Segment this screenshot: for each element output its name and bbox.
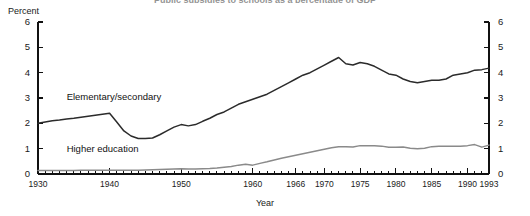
y-tick-label-left: 3 bbox=[14, 93, 30, 102]
x-tick-label: 1950 bbox=[161, 180, 201, 189]
y-tick-label-left: 2 bbox=[14, 118, 30, 127]
x-tick-label: 1980 bbox=[376, 180, 416, 189]
x-tick-label: 1930 bbox=[18, 180, 58, 189]
y-tick-label-right: 0 bbox=[498, 169, 514, 178]
x-tick-label: 1985 bbox=[412, 180, 452, 189]
x-tick-label: 1975 bbox=[340, 180, 380, 189]
y-tick-label-left: 6 bbox=[14, 17, 30, 26]
x-tick-label: 1970 bbox=[304, 180, 344, 189]
series-label: Elementary/secondary bbox=[67, 91, 162, 102]
x-tick-label: 1993 bbox=[469, 180, 509, 189]
x-axis-title: Year bbox=[0, 198, 530, 208]
y-tick-label-right: 2 bbox=[498, 118, 514, 127]
y-tick-label-right: 6 bbox=[498, 17, 514, 26]
y-tick-label-left: 1 bbox=[14, 144, 30, 153]
y-tick-label-right: 1 bbox=[498, 144, 514, 153]
y-tick-label-right: 5 bbox=[498, 42, 514, 51]
y-tick-label-left: 0 bbox=[14, 169, 30, 178]
y-tick-label-left: 4 bbox=[14, 68, 30, 77]
x-tick-label: 1940 bbox=[90, 180, 130, 189]
series-label: Higher education bbox=[67, 143, 139, 154]
y-tick-label-right: 4 bbox=[498, 68, 514, 77]
y-tick-label-right: 3 bbox=[498, 93, 514, 102]
x-tick-label: 1960 bbox=[233, 180, 273, 189]
y-tick-label-left: 5 bbox=[14, 42, 30, 51]
chart-figure: Public subsidies to schools as a percent… bbox=[0, 0, 530, 216]
